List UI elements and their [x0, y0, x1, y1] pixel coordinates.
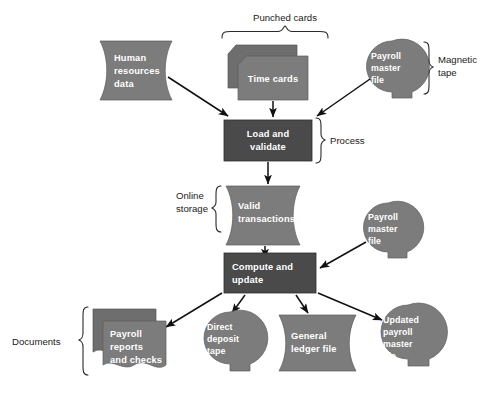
- annotation-punched-cards-label: Punched cards: [253, 12, 317, 23]
- node-label-line: file: [368, 236, 381, 246]
- brace-online-storage: [212, 186, 221, 232]
- node-label-line: Load and: [247, 129, 290, 139]
- edge-payrollmaster-to-load: [317, 79, 370, 116]
- node-label-line: transactions: [238, 214, 295, 224]
- online-storage-symbol: [279, 315, 356, 371]
- edge-payrollmaster-to-compute: [320, 242, 366, 268]
- annotation-online-storage-label: storage: [176, 203, 208, 214]
- annotation-punched-cards: Punched cards: [222, 12, 328, 38]
- node-human-resources-data[interactable]: Human resources data: [100, 41, 172, 100]
- annotation-documents: Documents: [12, 307, 88, 375]
- process-symbol: [224, 253, 316, 293]
- annotation-online-storage: Online storage: [176, 186, 221, 232]
- flowchart-canvas: Punched cards Human resources data Time …: [0, 0, 485, 398]
- node-label-line: Time cards: [248, 74, 298, 84]
- node-label-line: master: [368, 224, 398, 234]
- brace-process: [316, 118, 325, 163]
- node-compute-and-update[interactable]: Compute and update: [224, 253, 316, 293]
- node-label-line: deposit: [207, 334, 239, 344]
- process-symbol: [224, 120, 312, 161]
- edge-compute-to-ledger: [296, 295, 308, 313]
- annotation-magnetic-tape: Magnetic tape: [424, 42, 477, 94]
- node-label-line: update: [232, 275, 263, 285]
- node-updated-payroll-master-file[interactable]: Updated payroll master file: [381, 303, 447, 366]
- node-load-and-validate[interactable]: Load and validate: [224, 120, 312, 161]
- node-label-line: data: [114, 79, 134, 89]
- node-label-line: Updated: [383, 315, 419, 325]
- node-general-ledger-file[interactable]: General ledger file: [279, 315, 356, 371]
- annotation-process: Process: [316, 118, 365, 163]
- node-payroll-master-file-update[interactable]: Payroll master file: [364, 201, 424, 258]
- node-payroll-master-file-input[interactable]: Payroll master file: [367, 39, 430, 98]
- node-label-line: General: [291, 331, 327, 341]
- node-label-line: Payroll: [371, 51, 401, 61]
- node-label-line: validate: [250, 142, 286, 152]
- node-valid-transactions[interactable]: Valid transactions: [226, 186, 300, 245]
- node-label-line: Direct: [207, 322, 233, 332]
- annotation-magnetic-tape-label: tape: [438, 67, 457, 78]
- node-label-line: Payroll: [368, 212, 398, 222]
- node-label-line: Valid: [238, 201, 261, 211]
- node-label-line: and checks: [110, 355, 162, 365]
- node-time-cards[interactable]: Time cards: [228, 45, 308, 100]
- node-label-line: file: [371, 75, 384, 85]
- node-label-line: master: [383, 339, 413, 349]
- node-label-line: file: [383, 351, 396, 361]
- node-label-line: payroll: [383, 327, 413, 337]
- annotation-online-storage-label: Online: [176, 190, 204, 201]
- annotation-process-label: Process: [330, 135, 365, 146]
- node-label-line: master: [371, 63, 401, 73]
- node-label-line: resources: [114, 66, 160, 76]
- node-label-line: Payroll: [110, 329, 142, 339]
- node-payroll-reports-and-checks[interactable]: Payroll reports and checks: [93, 309, 166, 367]
- annotation-magnetic-tape-label: Magnetic: [438, 54, 477, 65]
- edge-hr-to-load: [168, 77, 228, 116]
- node-label-line: tape: [207, 346, 226, 356]
- brace-documents: [79, 307, 88, 375]
- brace-punched-cards: [222, 26, 328, 38]
- node-label-line: ledger file: [291, 344, 337, 354]
- node-label-line: Compute and: [232, 262, 293, 272]
- flowchart-svg: Punched cards Human resources data Time …: [0, 0, 485, 398]
- annotation-documents-label: Documents: [12, 336, 61, 347]
- node-direct-deposit-tape[interactable]: Direct deposit tape: [204, 310, 268, 371]
- node-label-line: reports: [110, 342, 143, 352]
- node-label-line: Human: [114, 53, 146, 63]
